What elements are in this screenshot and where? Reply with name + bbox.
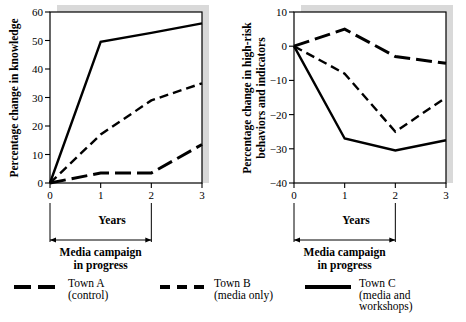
x-tick-label: 1 [98, 189, 104, 201]
y-tick-label: 60 [32, 6, 44, 18]
chart-panel-left: 60 50 40 30 20 10 0 0 1 2 3 [0, 0, 233, 275]
y-tick-marks [289, 12, 294, 183]
x-tick-label: 0 [47, 189, 53, 201]
y-axis-title-line1: Percentage change in high-risk [241, 22, 254, 174]
campaign-caption-line1: Media campaign [304, 246, 387, 259]
legend-label-sub2: workshops) [359, 301, 413, 313]
y-axis-title-line2: behaviors and indicators [255, 37, 267, 159]
y-tick-label: −40 [270, 177, 288, 189]
x-tick-label: 2 [393, 189, 399, 201]
x-tick-label: 3 [199, 189, 205, 201]
legend-label-town-c: Town C (media and workshops) [359, 278, 413, 313]
x-tick-labels: 0 1 2 3 [291, 189, 449, 201]
legend-label-name: Town A [68, 278, 108, 290]
legend-label-town-b: Town B (media only) [214, 278, 273, 301]
x-tick-marks [50, 183, 202, 188]
y-tick-labels: 10 0 −10 −20 −30 −40 [270, 6, 288, 189]
legend-swatch-short-dash-icon [160, 285, 206, 289]
y-tick-label: 10 [32, 149, 44, 161]
x-tick-label: 2 [149, 189, 155, 201]
x-tick-label: 0 [291, 189, 297, 201]
right-chart-svg: 10 0 −10 −20 −30 −40 0 1 2 3 Percentage … [233, 0, 466, 275]
figure-root: 60 50 40 30 20 10 0 0 1 2 3 [0, 0, 466, 322]
y-tick-labels: 60 50 40 30 20 10 0 [32, 6, 44, 189]
x-tick-labels: 0 1 2 3 [47, 189, 205, 201]
y-axis-title: Percentage change in knowledge [8, 18, 21, 177]
y-tick-marks [45, 12, 50, 183]
left-chart-svg: 60 50 40 30 20 10 0 0 1 2 3 [0, 0, 233, 275]
x-axis-title: Years [342, 214, 370, 226]
y-tick-label: 30 [32, 92, 44, 104]
y-tick-label: 10 [276, 6, 288, 18]
y-tick-label: −30 [270, 143, 288, 155]
y-tick-label: −20 [270, 109, 288, 121]
x-axis-title: Years [98, 214, 126, 226]
legend-swatch-long-dash-icon [14, 285, 60, 289]
x-tick-label: 3 [443, 189, 449, 201]
x-tick-marks [294, 183, 446, 188]
y-tick-label: 20 [32, 120, 44, 132]
chart-panel-right: 10 0 −10 −20 −30 −40 0 1 2 3 Percentage … [233, 0, 466, 275]
y-tick-label: −10 [270, 74, 288, 86]
legend-label-sub: (control) [68, 290, 108, 302]
campaign-caption-line2: in progress [318, 259, 373, 272]
legend-swatch-solid-icon [305, 285, 351, 289]
y-tick-label: 0 [38, 177, 44, 189]
legend-label-sub: (media only) [214, 290, 273, 302]
y-tick-label: 0 [282, 40, 288, 52]
legend-label-name: Town C [359, 278, 413, 290]
legend-label-name: Town B [214, 278, 273, 290]
legend-label-town-a: Town A (control) [68, 278, 108, 301]
chart-legend: Town A (control) Town B (media only) Tow… [0, 278, 466, 322]
campaign-caption-line2: in progress [74, 259, 129, 272]
y-tick-label: 50 [32, 35, 44, 47]
campaign-caption-line1: Media campaign [60, 246, 143, 259]
x-tick-label: 1 [342, 189, 348, 201]
y-tick-label: 40 [32, 63, 44, 75]
